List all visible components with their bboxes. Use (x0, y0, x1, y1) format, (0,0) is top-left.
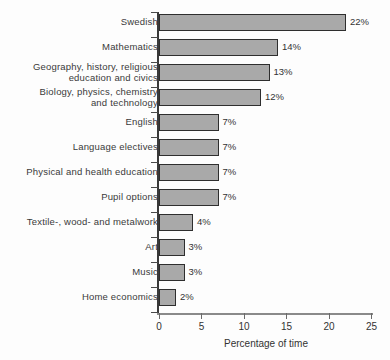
category-label: English (8, 117, 158, 128)
bar-rows: Swedish 22% Mathematics 14% Geography, h… (0, 12, 390, 312)
category-label: Pupil options (8, 192, 158, 203)
x-axis-tick (286, 313, 287, 319)
bar-value-label: 2% (180, 291, 194, 302)
bar-value-label: 22% (350, 16, 369, 27)
category-label: Home economics (8, 292, 158, 303)
table-row: Home economics 2% (0, 287, 390, 312)
bar-language-electives (159, 139, 219, 156)
table-row: Art 3% (0, 237, 390, 262)
y-axis-tick (151, 62, 158, 63)
y-axis-tick (151, 287, 158, 288)
table-row: Biology, physics, chemistry and technolo… (0, 87, 390, 112)
bar-value-label: 12% (265, 91, 284, 102)
x-axis-tick (159, 313, 160, 319)
y-axis-tick (151, 187, 158, 188)
bar-value-label: 7% (223, 116, 237, 127)
table-row: Textile-, wood- and metalwork 4% (0, 212, 390, 237)
y-axis-tick (151, 237, 158, 238)
bar-geography-history-religious-education-civics (159, 64, 270, 81)
y-axis-tick (151, 12, 158, 13)
table-row: Language electives 7% (0, 137, 390, 162)
bar-value-label: 7% (223, 191, 237, 202)
category-label: Art (8, 242, 158, 253)
table-row: Music 3% (0, 262, 390, 287)
table-row: English 7% (0, 112, 390, 137)
x-axis-line (157, 313, 373, 315)
bar-chart: Swedish 22% Mathematics 14% Geography, h… (0, 0, 390, 360)
x-axis-tick-label: 5 (199, 321, 205, 332)
x-axis-tick (329, 313, 330, 319)
bar-english (159, 114, 219, 131)
y-axis-tick (151, 212, 158, 213)
table-row: Mathematics 14% (0, 37, 390, 62)
bar-value-label: 4% (197, 216, 211, 227)
table-row: Pupil options 7% (0, 187, 390, 212)
x-axis-tick-label: 10 (238, 321, 249, 332)
bar-value-label: 13% (274, 66, 293, 77)
y-axis-tick (151, 262, 158, 263)
y-axis-tick (151, 37, 158, 38)
bar-art (159, 239, 185, 256)
category-label: Physical and health education (8, 167, 158, 178)
x-axis-tick (244, 313, 245, 319)
x-axis-tick-label: 25 (366, 321, 377, 332)
table-row: Swedish 22% (0, 12, 390, 37)
bar-physical-and-health-education (159, 164, 219, 181)
y-axis-tick (151, 162, 158, 163)
bar-swedish (159, 14, 346, 31)
y-axis-tick (151, 87, 158, 88)
bar-music (159, 264, 185, 281)
category-label: Music (8, 267, 158, 278)
bar-value-label: 7% (223, 141, 237, 152)
plot-area: Swedish 22% Mathematics 14% Geography, h… (0, 0, 390, 360)
x-axis-tick-label: 0 (156, 321, 162, 332)
category-label: Mathematics (8, 42, 158, 53)
x-axis-tick-label: 20 (323, 321, 334, 332)
bar-pupil-options (159, 189, 219, 206)
bar-home-economics (159, 289, 176, 306)
bar-value-label: 3% (189, 241, 203, 252)
bar-mathematics (159, 39, 278, 56)
category-label: Geography, history, religious education … (8, 62, 158, 83)
bar-value-label: 3% (189, 266, 203, 277)
table-row: Geography, history, religious education … (0, 62, 390, 87)
bar-value-label: 7% (223, 166, 237, 177)
category-label: Language electives (8, 142, 158, 153)
x-axis-tick (201, 313, 202, 319)
table-row: Physical and health education 7% (0, 162, 390, 187)
x-axis-tick-label: 15 (281, 321, 292, 332)
x-axis-tick (371, 313, 372, 319)
x-axis-title: Percentage of time (159, 338, 373, 349)
bar-biology-physics-chemistry-technology (159, 89, 261, 106)
bar-value-label: 14% (282, 41, 301, 52)
y-axis-tick (151, 112, 158, 113)
bar-textile-wood-and-metalwork (159, 214, 193, 231)
category-label: Swedish (8, 17, 158, 28)
y-axis-tick (151, 137, 158, 138)
category-label: Textile-, wood- and metalwork (8, 217, 158, 228)
category-label: Biology, physics, chemistry and technolo… (8, 87, 158, 108)
